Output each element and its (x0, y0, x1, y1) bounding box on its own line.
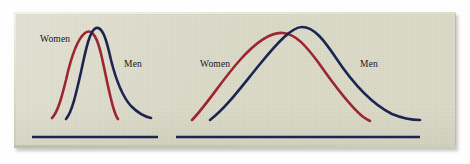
left-panel (32, 28, 158, 137)
right-panel (176, 27, 420, 137)
left-women-label: Women (40, 34, 70, 44)
right-women-curve (192, 33, 370, 121)
right-women-label: Women (200, 59, 230, 69)
distribution-curves-svg (0, 0, 470, 164)
right-men-curve (210, 27, 420, 120)
right-men-label: Men (360, 59, 378, 69)
left-men-label: Men (124, 59, 142, 69)
figure-canvas: Women Men Women Men (0, 0, 470, 164)
